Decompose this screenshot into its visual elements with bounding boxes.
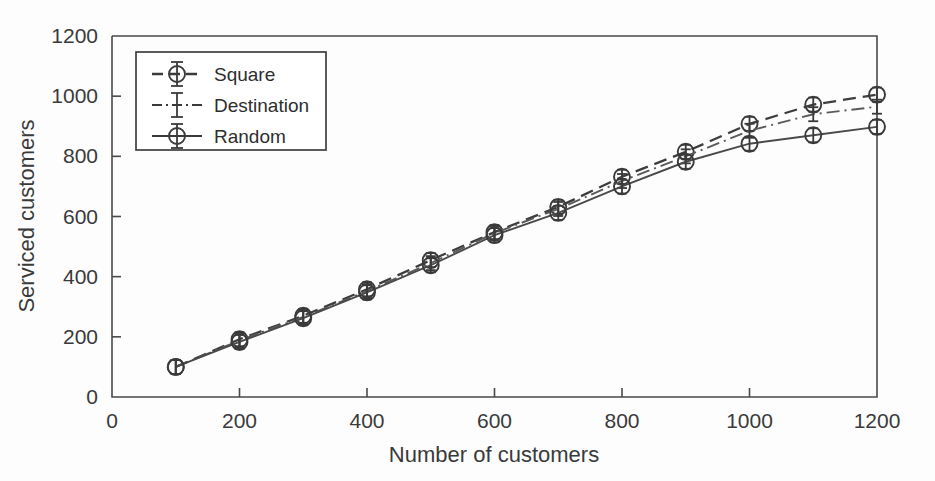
x-tick-labels: 020040060080010001200 [106, 409, 900, 432]
x-tick-label: 600 [477, 409, 512, 432]
x-tick-marks [240, 388, 750, 397]
series-line-random [176, 127, 877, 367]
y-tick-label: 1000 [51, 84, 98, 107]
y-tick-label: 600 [63, 205, 98, 228]
chart-legend: SquareDestinationRandom [136, 52, 326, 150]
y-tick-label: 0 [86, 385, 98, 408]
y-tick-marks [112, 96, 121, 337]
x-axis-label: Number of customers [389, 442, 599, 467]
y-tick-label: 800 [63, 144, 98, 167]
series-random [168, 119, 885, 375]
y-tick-label: 200 [63, 325, 98, 348]
x-tick-label: 1200 [854, 409, 901, 432]
x-tick-label: 0 [106, 409, 118, 432]
y-tick-label: 400 [63, 265, 98, 288]
x-tick-label: 400 [349, 409, 384, 432]
chart-figure: 020040060080010001200 020040060080010001… [0, 0, 935, 481]
x-tick-label: 800 [604, 409, 639, 432]
line-chart-svg: 020040060080010001200 020040060080010001… [0, 0, 935, 481]
y-axis-label: Serviced customers [14, 119, 39, 312]
y-tick-label: 1200 [51, 24, 98, 47]
x-tick-label: 200 [222, 409, 257, 432]
legend-label: Destination [214, 95, 309, 116]
legend-label: Random [214, 126, 286, 147]
x-tick-label: 1000 [726, 409, 773, 432]
legend-label: Square [214, 64, 275, 85]
y-tick-labels: 020040060080010001200 [51, 24, 98, 408]
